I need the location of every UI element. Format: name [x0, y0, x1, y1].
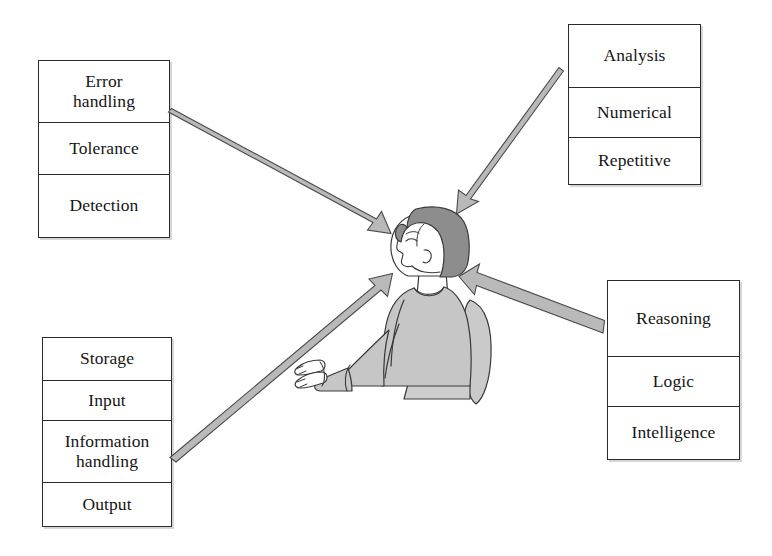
arrow-from-reasoning-icon [459, 264, 605, 333]
arrow-layer [0, 0, 772, 556]
diagram-canvas: Error handling Tolerance Detection Analy… [0, 0, 772, 556]
arrow-from-error-handling-icon [169, 109, 392, 234]
arrow-from-information-icon [170, 274, 393, 463]
arrow-from-analysis-icon [457, 68, 564, 215]
